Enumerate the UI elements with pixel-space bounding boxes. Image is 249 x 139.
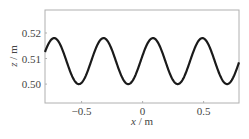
y-tick-label: 0.50	[22, 78, 42, 90]
y-tick-label: 0.52	[22, 27, 41, 39]
x-tick-label: −0.5	[72, 105, 92, 117]
y-tick-label: 0.51	[22, 53, 41, 65]
chart: −0.500.5 0.500.510.52 x / m z / m	[0, 0, 249, 139]
y-axis-label: z / m	[7, 45, 19, 68]
x-tick-label: 0.5	[197, 105, 211, 117]
y-axis-ticks: 0.500.510.52	[22, 27, 47, 90]
x-axis-label: x / m	[130, 115, 153, 127]
